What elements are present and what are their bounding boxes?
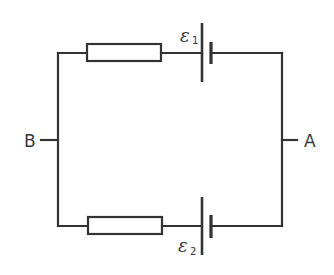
node-a-label: A <box>304 131 316 151</box>
bottom-branch: ε 2 <box>58 197 282 257</box>
emf2-label: ε <box>178 235 188 256</box>
circuit-diagram: ε 1 ε 2 B A <box>0 0 334 275</box>
emf1-subscript: 1 <box>192 35 198 46</box>
bottom-resistor <box>88 217 162 234</box>
node-a: A <box>282 131 316 151</box>
node-b-label: B <box>24 131 36 151</box>
emf2-subscript: 2 <box>190 246 196 257</box>
node-b: B <box>24 131 58 151</box>
top-resistor <box>87 44 161 61</box>
emf1-label: ε <box>180 25 190 46</box>
top-branch: ε 1 <box>58 23 282 82</box>
